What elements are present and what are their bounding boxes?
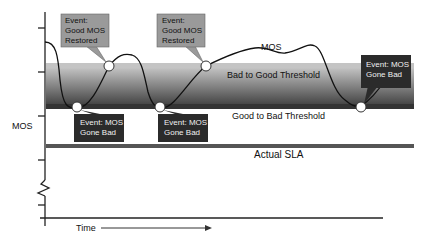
actual-sla-label: Actual SLA — [254, 149, 304, 160]
event-marker — [72, 102, 82, 112]
svg-text:Gone Bad: Gone Bad — [366, 70, 402, 79]
svg-text:Event: MOS: Event: MOS — [164, 118, 207, 127]
svg-text:Good MOS: Good MOS — [65, 26, 105, 35]
svg-text:Gone Bad: Gone Bad — [164, 128, 200, 137]
actual-sla-line — [46, 144, 414, 148]
event-marker — [104, 61, 114, 71]
time-arrow-icon — [101, 225, 212, 231]
x-axis-label: Time — [76, 223, 96, 233]
event-marker — [356, 102, 366, 112]
callout-restored-1: Event: Good MOS Restored — [61, 14, 109, 62]
good-to-bad-threshold-label: Good to Bad Threshold — [232, 111, 325, 121]
callout-bad-1: Event: MOS Gone Bad — [74, 110, 124, 142]
axis-break-icon — [38, 180, 49, 196]
svg-text:Event: MOS: Event: MOS — [366, 60, 409, 69]
svg-text:Event:: Event: — [65, 16, 88, 25]
y-axis-label: MOS — [12, 121, 33, 131]
bad-to-good-threshold-label: Bad to Good Threshold — [227, 70, 320, 80]
svg-text:Gone Bad: Gone Bad — [80, 128, 116, 137]
callout-restored-2: Event: Good MOS Restored — [157, 14, 205, 62]
svg-text:Restored: Restored — [162, 36, 194, 45]
svg-text:Event:: Event: — [162, 16, 185, 25]
svg-text:Restored: Restored — [65, 36, 97, 45]
mos-curve-label: MOS — [261, 42, 282, 52]
callout-bad-2: Event: MOS Gone Bad — [158, 110, 208, 142]
svg-text:Event: MOS: Event: MOS — [80, 118, 123, 127]
event-marker — [201, 61, 211, 71]
event-marker — [155, 102, 165, 112]
svg-text:Good MOS: Good MOS — [162, 26, 202, 35]
mos-threshold-diagram: Event: Good MOS Restored Event: Good MOS… — [0, 0, 424, 243]
y-axis — [38, 12, 49, 226]
